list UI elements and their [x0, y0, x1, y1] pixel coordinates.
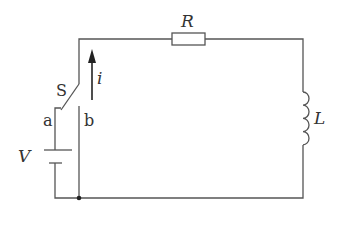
label-inductor: L [313, 108, 325, 128]
wire-right-bottom [55, 145, 303, 198]
junction-dot [77, 196, 82, 201]
label-voltage: V [18, 146, 32, 166]
label-switch: S [56, 81, 67, 100]
label-terminal-a: a [43, 111, 53, 130]
terminal-a-wire [55, 108, 61, 150]
current-arrow-icon [88, 49, 96, 63]
label-current: i [97, 68, 102, 88]
label-resistor: R [180, 11, 194, 31]
inductor [303, 92, 309, 145]
label-terminal-b: b [84, 111, 94, 130]
circuit-diagram: R L S i V a b [0, 0, 339, 231]
resistor [172, 33, 205, 45]
wire-top-right [205, 39, 303, 92]
